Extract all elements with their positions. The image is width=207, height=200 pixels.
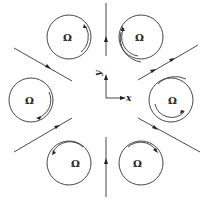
arrowhead-icon [45,64,51,69]
arrowhead-icon [36,116,41,120]
streamline-lower-left [14,118,72,152]
streamline-lower-right [138,118,200,152]
streamline-upper-left [14,48,72,81]
roller-label: Ω [71,158,80,169]
rotation-arrow-icon [155,104,184,117]
roller-label: Ω [135,32,144,43]
x-axis-label: x [125,93,132,103]
roller-bottom-left [47,141,91,185]
roller-label: Ω [63,32,72,43]
coordinate-axes [104,74,126,100]
arrowhead-up-icon [104,158,108,164]
y-axis-arrow-icon [104,74,108,80]
roller-flow-diagram: Ω Ω Ω Ω Ω Ω y x [0,0,207,200]
arrowhead-up-icon [104,36,108,42]
roller-label: Ω [25,95,34,106]
y-axis-label: y [93,70,103,77]
arrowhead-icon [83,24,87,28]
roller-label: Ω [133,158,142,169]
roller-circle [47,141,91,185]
streamline-upper-right [138,45,198,80]
diagram-svg: Ω Ω Ω Ω Ω Ω y x [0,0,207,200]
rotation-arrow-icon [38,92,51,118]
rotation-arrow-icon [81,27,88,52]
rotation-arrow-icon [53,142,83,152]
roller-label: Ω [168,95,177,106]
